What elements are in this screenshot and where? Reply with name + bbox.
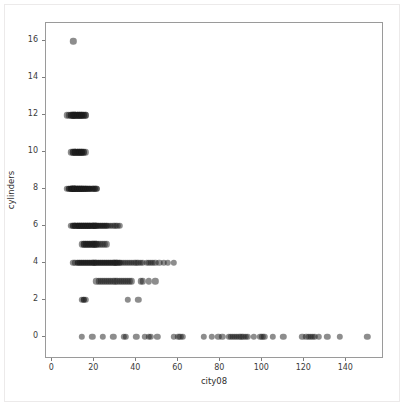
scatter-point bbox=[270, 333, 276, 339]
scatter-point bbox=[72, 112, 78, 118]
scatter-point bbox=[87, 186, 93, 192]
scatter-point bbox=[91, 186, 97, 192]
y-axis-label: cylinders bbox=[6, 171, 16, 209]
scatter-point bbox=[70, 223, 76, 229]
scatter-point bbox=[78, 333, 84, 339]
scatter-point bbox=[78, 223, 84, 229]
scatter-points-layer bbox=[46, 23, 382, 357]
scatter-point bbox=[91, 223, 97, 229]
scatter-point bbox=[83, 241, 89, 247]
scatter-point bbox=[102, 260, 108, 266]
scatter-point bbox=[303, 333, 309, 339]
scatter-point bbox=[106, 223, 112, 229]
scatter-point bbox=[110, 333, 116, 339]
y-axis-tick-label: 12 bbox=[28, 109, 38, 119]
scatter-point bbox=[81, 260, 87, 266]
scatter-point bbox=[127, 260, 133, 266]
scatter-point bbox=[68, 186, 74, 192]
scatter-point bbox=[72, 112, 78, 118]
scatter-point bbox=[120, 260, 126, 266]
scatter-point bbox=[83, 260, 89, 266]
scatter-point bbox=[78, 112, 84, 118]
scatter-point bbox=[81, 112, 87, 118]
scatter-point bbox=[257, 333, 263, 339]
scatter-point bbox=[165, 260, 171, 266]
y-axis-tick bbox=[42, 336, 45, 337]
scatter-point bbox=[81, 186, 87, 192]
scatter-point bbox=[137, 260, 143, 266]
scatter-point bbox=[81, 241, 87, 247]
scatter-point bbox=[148, 260, 154, 266]
scatter-point bbox=[72, 223, 78, 229]
scatter-point bbox=[85, 223, 91, 229]
scatter-point bbox=[114, 278, 120, 284]
scatter-point bbox=[76, 186, 82, 192]
scatter-point bbox=[307, 333, 313, 339]
y-axis-tick-label: 4 bbox=[33, 257, 38, 267]
scatter-point bbox=[76, 223, 82, 229]
scatter-point bbox=[106, 260, 112, 266]
scatter-point bbox=[139, 260, 145, 266]
scatter-point bbox=[66, 186, 72, 192]
scatter-point bbox=[78, 186, 84, 192]
y-axis-tick-label: 16 bbox=[28, 35, 38, 45]
y-axis-tick bbox=[42, 299, 45, 300]
scatter-point bbox=[76, 223, 82, 229]
scatter-point bbox=[83, 223, 89, 229]
scatter-point bbox=[120, 278, 126, 284]
scatter-point bbox=[91, 223, 97, 229]
scatter-point bbox=[225, 333, 231, 339]
scatter-point bbox=[125, 297, 131, 303]
scatter-point bbox=[83, 186, 89, 192]
scatter-point bbox=[316, 333, 322, 339]
scatter-point bbox=[93, 223, 99, 229]
x-axis-tick-label: 80 bbox=[214, 363, 224, 373]
x-axis-tick-label: 20 bbox=[88, 363, 98, 373]
x-axis-tick-label: 60 bbox=[172, 363, 182, 373]
scatter-point bbox=[78, 149, 84, 155]
y-axis-tick bbox=[42, 40, 45, 41]
scatter-point bbox=[89, 260, 95, 266]
y-axis-tick bbox=[42, 188, 45, 189]
scatter-point bbox=[91, 241, 97, 247]
scatter-point bbox=[78, 241, 84, 247]
scatter-point bbox=[87, 260, 93, 266]
scatter-point bbox=[135, 297, 141, 303]
scatter-point bbox=[99, 223, 105, 229]
scatter-point bbox=[81, 223, 87, 229]
x-axis-tick-label: 0 bbox=[49, 363, 54, 373]
scatter-point bbox=[133, 333, 139, 339]
x-axis-tick bbox=[219, 358, 220, 361]
scatter-plot-figure: 0204060801001201400246810121416 city08 c… bbox=[0, 0, 404, 406]
scatter-point bbox=[81, 149, 87, 155]
scatter-point bbox=[299, 333, 305, 339]
scatter-point bbox=[70, 149, 76, 155]
scatter-point bbox=[74, 149, 80, 155]
scatter-point bbox=[83, 112, 89, 118]
scatter-point bbox=[112, 260, 118, 266]
scatter-point bbox=[76, 186, 82, 192]
scatter-point bbox=[131, 260, 137, 266]
scatter-point bbox=[85, 260, 91, 266]
scatter-point bbox=[70, 112, 76, 118]
scatter-point bbox=[78, 297, 84, 303]
scatter-point bbox=[110, 278, 116, 284]
scatter-point bbox=[89, 241, 95, 247]
scatter-point bbox=[72, 260, 78, 266]
scatter-point bbox=[93, 241, 99, 247]
scatter-point bbox=[232, 333, 238, 339]
scatter-point bbox=[114, 223, 120, 229]
scatter-point bbox=[76, 186, 82, 192]
scatter-point bbox=[85, 260, 91, 266]
scatter-point bbox=[81, 223, 87, 229]
scatter-point bbox=[70, 186, 76, 192]
y-axis-tick bbox=[42, 151, 45, 152]
scatter-point bbox=[76, 149, 82, 155]
scatter-point bbox=[97, 278, 103, 284]
scatter-point bbox=[148, 333, 154, 339]
scatter-point bbox=[81, 112, 87, 118]
scatter-point bbox=[259, 333, 265, 339]
x-axis-tick bbox=[93, 358, 94, 361]
scatter-point bbox=[72, 149, 78, 155]
scatter-point bbox=[83, 260, 89, 266]
